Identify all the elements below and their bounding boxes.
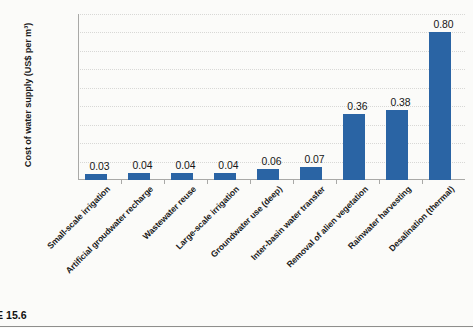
bar-group: 0.80 [422,14,465,180]
bar[interactable] [214,173,236,180]
bar-value-label: 0.80 [422,19,465,30]
bar[interactable] [171,173,193,180]
bar-group: 0.04 [207,14,250,180]
bar-value-label: 0.04 [207,160,250,171]
bar[interactable] [300,167,322,180]
bar[interactable] [343,114,365,180]
x-axis-tick-label: Inter-basin water transfer [249,184,327,262]
bar-group: 0.07 [293,14,336,180]
bar-value-label: 0.36 [336,101,379,112]
x-axis-tick-label: Groundwater use (deep) [208,184,283,259]
bar-value-label: 0.07 [293,154,336,165]
bar-group: 0.36 [336,14,379,180]
x-axis-tick-label: Removal of alien vegetation [284,184,370,270]
bar-value-label: 0.06 [250,156,293,167]
bar-value-label: 0.04 [164,160,207,171]
bar-group: 0.06 [250,14,293,180]
bar[interactable] [257,169,279,180]
figure-container: Cost of water supply (US$ per m³) 0.000.… [0,0,473,328]
bar-group: 0.04 [164,14,207,180]
x-axis-tick-labels: Small-scale irrigationArtificial groudwa… [78,181,465,293]
bar-group: 0.03 [78,14,121,180]
plot-area: 0.000.100.200.300.400.500.600.700.800.90… [78,14,465,180]
x-axis-tick-label: Artificial groudwater recharge [63,184,154,275]
bar[interactable] [429,32,451,180]
bar-value-label: 0.38 [379,97,422,108]
figure-caption: E 15.6 [0,309,27,321]
bar-group: 0.38 [379,14,422,180]
bar[interactable] [128,173,150,180]
bar-value-label: 0.03 [78,161,121,172]
bar[interactable] [386,110,408,180]
bar-series: 0.030.040.040.040.060.070.360.380.80 [78,14,465,180]
y-axis-title: Cost of water supply (US$ per m³) [23,5,33,185]
page-divider [0,326,473,327]
bar-value-label: 0.04 [121,160,164,171]
bar-group: 0.04 [121,14,164,180]
bar[interactable] [85,174,107,180]
